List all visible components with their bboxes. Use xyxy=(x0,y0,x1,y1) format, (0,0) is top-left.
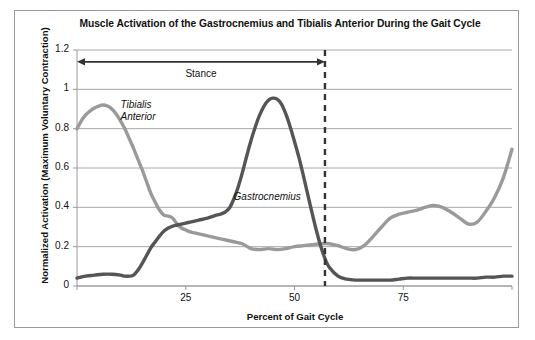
stance-annotation-label: Stance xyxy=(57,68,345,79)
y-tick-label: 0.8 xyxy=(37,122,69,133)
series-paths xyxy=(77,98,512,280)
series-line-tibialis-anterior xyxy=(77,105,512,250)
y-tick-label: 0.4 xyxy=(37,200,69,211)
y-tick-label: 1.2 xyxy=(37,43,69,54)
y-tick-label: 1 xyxy=(37,82,69,93)
x-tick-label: 75 xyxy=(386,292,420,303)
x-tick-label: 50 xyxy=(278,292,312,303)
x-tick-label: 25 xyxy=(169,292,203,303)
series-label-gastrocnemius: Gastrocnemius xyxy=(234,191,301,203)
chart-figure: Muscle Activation of the Gastrocnemius a… xyxy=(0,0,535,340)
x-axis-ticks xyxy=(77,286,512,290)
series-line-gastrocnemius xyxy=(77,98,512,280)
stance-arrow-left-head xyxy=(77,58,85,65)
series-label-tibialis-anterior: Tibialis Anterior xyxy=(121,99,156,122)
y-tick-label: 0 xyxy=(37,279,69,290)
gridlines xyxy=(73,50,512,286)
plot-area xyxy=(0,0,535,340)
y-tick-label: 0.6 xyxy=(37,161,69,172)
y-tick-label: 0.2 xyxy=(37,240,69,251)
